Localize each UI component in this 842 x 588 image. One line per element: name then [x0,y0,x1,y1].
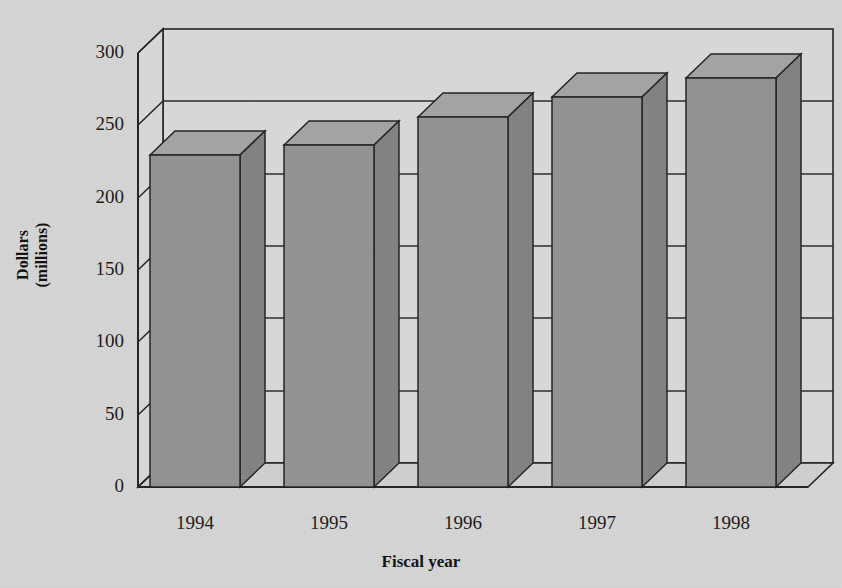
y-tick-label-300: 300 [58,41,124,63]
y-tick-label-150: 150 [58,258,124,280]
y-axis-title-line2: (millions) [32,175,51,335]
bar-side-face [240,131,265,487]
y-tick-label-100: 100 [58,330,124,352]
bar-front-face [552,97,642,487]
x-tick-label-1998: 1998 [671,512,791,534]
bar-1998 [686,54,801,487]
bar-1997 [552,73,667,487]
bar-1995 [284,121,399,487]
y-tick-label-250: 250 [58,113,124,135]
y-tick-label-0: 0 [58,475,124,497]
chart-screenshot: Dollars (millions) 300 250 200 150 100 5… [0,0,842,588]
bar-side-face [508,93,533,487]
bar-side-face [374,121,399,487]
bar-front-face [686,78,776,487]
bar-front-face [284,145,374,487]
y-axis-title-line1: Dollars [13,175,32,335]
x-tick-label-1995: 1995 [269,512,389,534]
bar-front-face [150,155,240,487]
x-tick-label-1997: 1997 [537,512,657,534]
bar-side-face [642,73,667,487]
three-d-bar-chart [0,0,842,588]
x-tick-label-1996: 1996 [403,512,523,534]
y-tick-label-200: 200 [58,186,124,208]
x-tick-label-1994: 1994 [135,512,255,534]
bar-side-face [776,54,801,487]
bar-1994 [150,131,265,487]
bar-front-face [418,117,508,487]
y-axis-title: Dollars (millions) [13,175,51,335]
y-tick-label-50: 50 [58,403,124,425]
bar-1996 [418,93,533,487]
x-axis-title: Fiscal year [0,552,842,572]
